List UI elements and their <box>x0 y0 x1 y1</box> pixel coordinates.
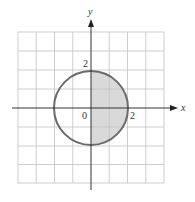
origin-label: 0 <box>82 110 87 121</box>
x-axis-arrow-icon <box>170 105 178 111</box>
y-tick-label-2: 2 <box>83 58 88 69</box>
x-axis-label: x <box>180 102 186 113</box>
y-axis-label: y <box>87 6 93 17</box>
coordinate-diagram: y x 2 0 2 <box>0 0 195 202</box>
y-axis-arrow-icon <box>88 19 94 27</box>
x-tick-label-2: 2 <box>130 110 135 121</box>
